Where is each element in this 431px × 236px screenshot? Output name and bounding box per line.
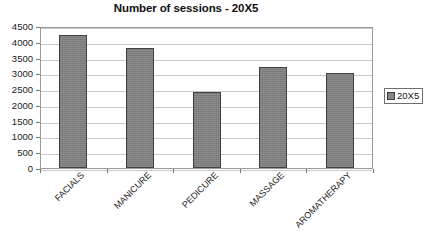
bar-pedicure (193, 92, 221, 168)
y-tick-label: 4500 (12, 22, 33, 32)
bar-chart: Number of sessions - 20X5 05001000150020… (0, 0, 431, 236)
x-tick-mark (306, 169, 307, 173)
y-tick-label: 3000 (12, 70, 33, 80)
y-axis: 050010001500200025003000350040004500 (0, 27, 36, 169)
x-tick-label: PEDICURE (180, 170, 220, 210)
y-tick-label: 2000 (12, 101, 33, 111)
bar-aromatherapy (326, 73, 354, 168)
y-tick-label: 3500 (12, 54, 33, 64)
x-axis: FACIALSMANICUREPEDICUREMASSAGEAROMATHERA… (40, 170, 373, 236)
chart-title: Number of sessions - 20X5 (0, 2, 372, 14)
bar-manicure (126, 48, 154, 168)
legend-swatch-20x5 (387, 92, 395, 100)
y-tick-label: 2500 (12, 85, 33, 95)
chart-legend: 20X5 (384, 88, 423, 104)
x-tick-label: FACIALS (53, 170, 86, 203)
y-tick-label: 4000 (12, 38, 33, 48)
x-tick-mark (107, 169, 108, 173)
x-tick-mark (173, 169, 174, 173)
y-tick-label: 1500 (12, 117, 33, 127)
y-tick-label: 1000 (12, 133, 33, 143)
y-tick-label: 500 (17, 148, 33, 158)
bar-massage (259, 67, 287, 168)
x-tick-label: MANICURE (112, 170, 153, 211)
x-tick-mark (40, 169, 41, 173)
x-tick-label: MASSAGE (248, 170, 287, 209)
x-tick-mark (373, 169, 374, 173)
x-tick-mark (240, 169, 241, 173)
y-tick-label: 0 (28, 164, 33, 174)
x-tick-label: AROMATHERAPY (293, 170, 353, 230)
bars-layer (40, 27, 373, 169)
bar-facials (59, 35, 87, 168)
legend-label-20x5: 20X5 (397, 91, 419, 101)
